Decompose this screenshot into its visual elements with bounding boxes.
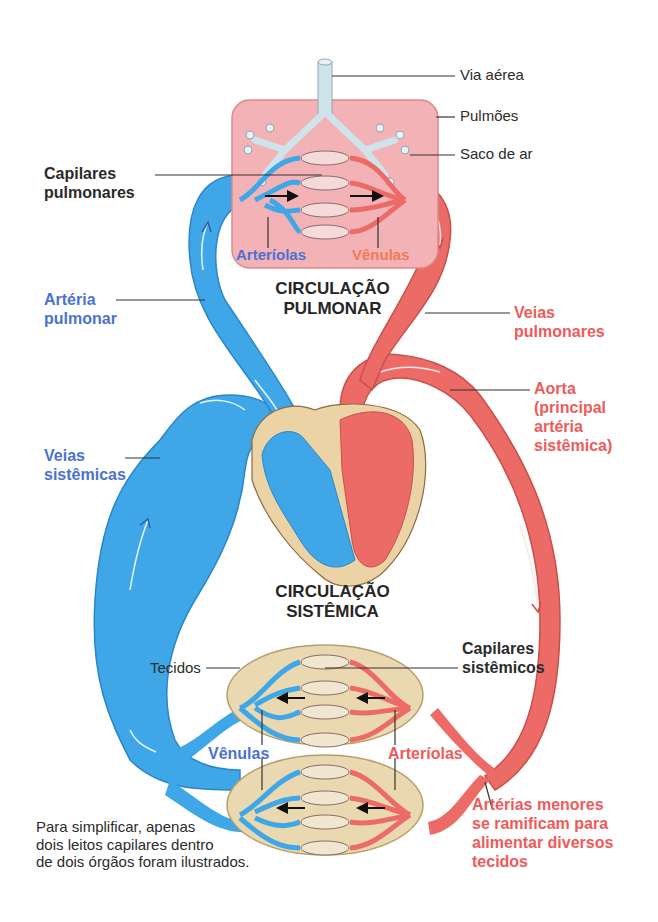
lungs (232, 59, 438, 268)
label-veias-pulmonares: Veias pulmonares (514, 304, 605, 342)
label-via-aerea: Via aérea (460, 66, 524, 84)
label-capilares-sistemicos: Capilares sistêmicos (462, 640, 545, 678)
label-saco-de-ar: Saco de ar (460, 145, 533, 163)
label-aorta: Aorta (principal artéria sistêmica) (534, 380, 612, 456)
title-circulacao-sistemica: CIRCULAÇÃO SISTÊMICA (255, 582, 410, 622)
tissue-bed-lower (227, 755, 423, 855)
label-capilares-pulmonares: Capilares pulmonares (44, 165, 135, 203)
label-arteriolas-sistemicas: Arteríolas (388, 745, 463, 764)
label-arterias-menores: Artérias menores se ramificam para alime… (472, 796, 613, 872)
tissue-bed-upper (227, 645, 423, 747)
heart (252, 404, 426, 586)
label-arteria-pulmonar: Artéria pulmonar (44, 291, 117, 329)
label-tecidos: Tecidos (150, 659, 201, 677)
label-arteriolas-pulmonares: Arteríolas (236, 246, 306, 264)
note-simplificacao: Para simplificar, apenas dois leitos cap… (36, 818, 249, 871)
label-venulas-pulmonares: Vênulas (352, 246, 410, 264)
label-veias-sistemicas: Veias sistêmicas (44, 447, 126, 485)
title-circulacao-pulmonar: CIRCULAÇÃO PULMONAR (255, 279, 410, 319)
label-venulas-sistemicas: Vênulas (208, 745, 269, 764)
label-pulmoes: Pulmões (460, 107, 518, 125)
